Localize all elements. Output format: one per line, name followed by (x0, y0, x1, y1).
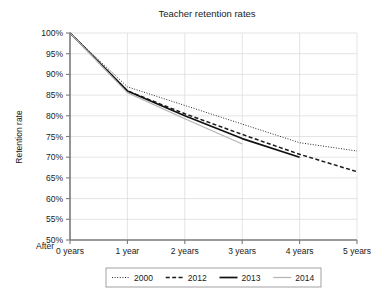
gridlines (70, 33, 357, 240)
y-axis-tick-label: 65% (46, 173, 63, 183)
chart-title: Teacher retention rates (158, 8, 255, 19)
y-axis-tick-label: 75% (46, 132, 63, 142)
x-axis-tick-label: 4 years (286, 246, 314, 256)
y-axis-tick-label: 60% (46, 194, 63, 204)
x-axis-tick-label: 5 years (343, 246, 371, 256)
x-axis-prefix-label: After (36, 241, 54, 251)
legend-label-2013: 2013 (242, 273, 261, 283)
series-line-2014 (70, 33, 242, 144)
y-axis-title-group: Retention rate (14, 110, 24, 164)
y-axis-tick-label: 95% (46, 49, 63, 59)
chart-legend: 2000201220132014 (106, 268, 321, 287)
y-axis-tick-label: 90% (46, 69, 63, 79)
y-axis-tick-label: 85% (46, 90, 63, 100)
chart-title-group: Teacher retention rates (158, 8, 255, 19)
x-axis-tick-label: 2 years (171, 246, 199, 256)
x-axis-tick-label: 3 years (228, 246, 256, 256)
y-axis-tick-label: 100% (41, 28, 63, 38)
y-axis-tick-label: 55% (46, 214, 63, 224)
legend-label-2012: 2012 (188, 273, 207, 283)
axis-spines (66, 33, 357, 244)
y-axis-tick-labels: 50%55%60%65%70%75%80%85%90%95%100% (41, 28, 63, 245)
y-axis-title: Retention rate (14, 110, 24, 164)
y-axis-tick-label: 70% (46, 152, 63, 162)
retention-rates-line-chart: Teacher retention rates 50%55%60%65%70%7… (0, 0, 384, 300)
legend-label-2000: 2000 (134, 273, 153, 283)
series-line-2000 (70, 33, 357, 151)
x-axis-tick-label: 1 year (116, 246, 140, 256)
x-axis-tick-labels: 0 years1 year2 years3 years4 years5 year… (56, 246, 371, 256)
chart-container: Teacher retention rates 50%55%60%65%70%7… (0, 0, 384, 300)
x-axis-prefix-group: After (36, 241, 54, 251)
y-axis-tick-label: 80% (46, 111, 63, 121)
legend-label-2014: 2014 (295, 273, 314, 283)
x-axis-tick-label: 0 years (56, 246, 84, 256)
